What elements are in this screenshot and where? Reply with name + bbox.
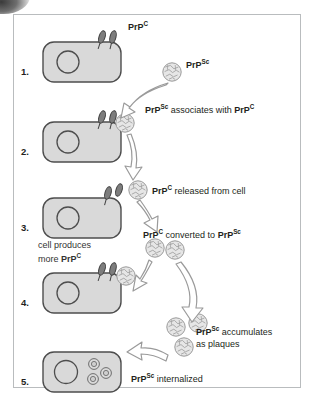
cell-step-4	[43, 262, 135, 313]
step-number-1: 1.	[21, 66, 29, 77]
internal-vesicle-3	[88, 374, 99, 385]
cell-step-5	[43, 352, 121, 392]
caption-released: PrPC released from cell	[152, 184, 246, 197]
cell-step-3	[43, 186, 121, 238]
label-prpc-tag: PrPC	[128, 20, 148, 33]
arrow-release	[125, 134, 142, 180]
prpsc-free-top	[163, 63, 181, 81]
caption-cell-produces: cell produces	[38, 240, 91, 251]
caption-internalized: PrPSc internalized	[131, 372, 203, 385]
step-number-2: 2.	[21, 146, 29, 157]
prpsc-bound-step4	[117, 267, 135, 285]
internal-vesicle-1	[89, 359, 100, 370]
prpsc-released	[129, 181, 147, 199]
caption-as-plaques: as plaques	[196, 339, 240, 350]
step-number-4: 4.	[21, 297, 29, 308]
prpsc-plaque-1	[167, 318, 185, 336]
prion-propagation-figure: 1. 2. 3. 4. 5. PrPC PrPSc PrPSc associat…	[0, 0, 316, 402]
cell-step-1	[43, 30, 121, 82]
prpsc-converted-1	[146, 239, 164, 257]
arrow-back-to-cell	[133, 260, 152, 291]
arrow-internalize	[127, 342, 168, 361]
label-prpsc-tag: PrPSc	[186, 58, 209, 71]
arrow-accumulate	[176, 262, 203, 322]
figure-graphics	[0, 0, 316, 402]
internal-vesicle-2	[101, 368, 112, 379]
step-number-3: 3.	[21, 222, 29, 233]
prpsc-converted-2	[166, 241, 184, 259]
step-number-5: 5.	[21, 376, 29, 387]
caption-cell-produces-more: more PrPC	[38, 252, 81, 265]
prpsc-plaque-3	[175, 338, 193, 356]
caption-converted: PrPC converted to PrPSc	[143, 228, 241, 241]
prpc-released	[114, 183, 124, 197]
caption-accumulates: PrPSc accumulates	[196, 325, 272, 338]
caption-associates: PrPSc associates with PrPC	[145, 103, 254, 116]
